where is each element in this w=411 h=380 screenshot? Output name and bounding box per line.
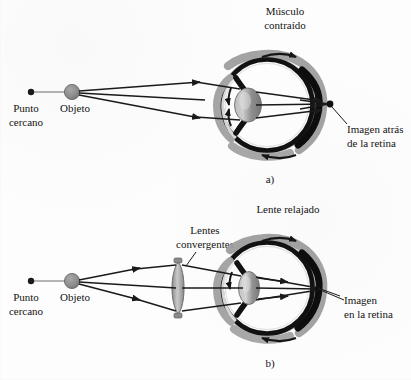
panel-b-letter: b) — [265, 357, 275, 370]
panel-b-near-point-label-line2: cercano — [9, 305, 44, 317]
panel-a-image-label-line1: Imagen atrás — [347, 123, 404, 135]
eye-accommodation-figure: Músculo contraído — [0, 0, 411, 380]
panel-a-object-dot — [64, 84, 79, 99]
panel-a-muscle-label-line2: contraído — [264, 19, 306, 31]
panel-a-image-point — [327, 101, 334, 108]
panel-b-near-point-dot — [28, 278, 34, 284]
panel-b-spectacle-leader — [186, 252, 196, 266]
panel-a: Músculo contraído — [9, 5, 404, 186]
panel-a-object-label: Objeto — [60, 102, 90, 114]
panel-b-spectacle-label-line1: Lentes — [190, 224, 219, 236]
panel-b-image-label-line2: en la retina — [344, 308, 393, 320]
panel-b-image-label-line1: Imagen — [344, 294, 377, 306]
panel-a-muscle-label-line1: Músculo — [266, 5, 305, 17]
panel-a-image-label-line2: de la retina — [347, 137, 396, 149]
panel-a-near-point-label-line2: cercano — [9, 116, 44, 128]
panel-b: Lente relajado Lentes convergentes — [9, 203, 393, 370]
panel-b-object-label: Objeto — [60, 291, 90, 303]
panel-a-eye — [217, 54, 323, 158]
figure-canvas: Músculo contraído — [0, 0, 411, 380]
panel-a-near-point-label-line1: Punto — [13, 102, 39, 114]
panel-b-near-point-label-line1: Punto — [13, 291, 39, 303]
panel-a-near-point-dot — [28, 89, 34, 95]
panel-b-spectacle-label-line2: convergentes — [176, 238, 234, 250]
panel-b-relaxed-lens-label: Lente relajado — [256, 203, 320, 215]
panel-a-letter: a) — [266, 173, 275, 186]
panel-a-image-leader — [332, 107, 347, 124]
panel-b-object-dot — [64, 273, 79, 288]
